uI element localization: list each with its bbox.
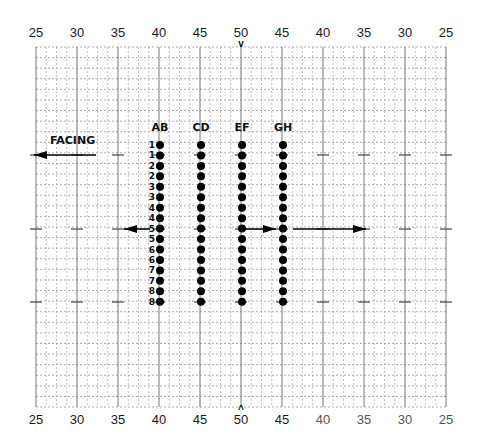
marcher-dot [156, 298, 164, 306]
row-label: 6 [149, 255, 155, 265]
marcher-dot [238, 141, 246, 149]
marcher-dot [156, 214, 164, 222]
marcher-dot [156, 183, 164, 191]
marcher-dot [197, 225, 205, 233]
center-marker-top: v [238, 38, 244, 49]
marcher-dot [197, 141, 205, 149]
marcher-dot [279, 172, 287, 180]
row-label: 5 [149, 224, 155, 234]
marcher-dot [156, 193, 164, 201]
marcher-dot [238, 256, 246, 264]
marcher-dot [279, 235, 287, 243]
marcher-dot [156, 256, 164, 264]
column-label-gh: GH [274, 121, 292, 134]
row-label: 3 [149, 182, 155, 192]
marcher-dot [279, 141, 287, 149]
marcher-dot [238, 266, 246, 274]
marcher-dot [238, 298, 246, 306]
marcher-dot [279, 266, 287, 274]
row-label: 6 [149, 245, 155, 255]
row-label: 7 [149, 265, 155, 275]
column-label-cd: CD [192, 121, 209, 134]
row-label: 4 [149, 203, 155, 213]
row-label: 4 [149, 213, 155, 223]
marcher-dot [156, 204, 164, 212]
marcher-dot [238, 214, 246, 222]
center-marker-bottom: ^ [238, 404, 244, 415]
marcher-dot [279, 256, 287, 264]
row-label: 8 [149, 286, 155, 296]
marcher-dot [156, 277, 164, 285]
marcher-dot [279, 204, 287, 212]
marcher-dot [238, 162, 246, 170]
marcher-dot [156, 162, 164, 170]
arrowhead-icon [263, 225, 276, 233]
marcher-dot [156, 246, 164, 254]
marcher-dot [156, 287, 164, 295]
marcher-dot [156, 235, 164, 243]
marcher-dot [197, 266, 205, 274]
marcher-dot [197, 246, 205, 254]
marcher-dot [279, 246, 287, 254]
facing-label: FACING [50, 134, 95, 147]
marcher-dot [156, 151, 164, 159]
row-label: 7 [149, 276, 155, 286]
marcher-dot [238, 151, 246, 159]
marcher-dot [197, 151, 205, 159]
marcher-dot [197, 287, 205, 295]
marcher-dot [279, 277, 287, 285]
column-label-ef: EF [234, 121, 249, 134]
marcher-dot [279, 287, 287, 295]
marcher-dot [197, 235, 205, 243]
row-label: 1 [149, 140, 155, 150]
marcher-dot [156, 172, 164, 180]
marcher-dot [238, 277, 246, 285]
marcher-dot [279, 151, 287, 159]
row-label: 1 [149, 150, 155, 160]
marcher-dot [238, 183, 246, 191]
marcher-dot [197, 172, 205, 180]
row-label: 3 [149, 192, 155, 202]
marcher-dot [279, 193, 287, 201]
marcher-dot [238, 172, 246, 180]
column-label-ab: AB [152, 121, 169, 134]
marcher-dot [238, 204, 246, 212]
marcher-dot [156, 266, 164, 274]
marcher-dot [238, 193, 246, 201]
row-label: 2 [149, 171, 155, 181]
marcher-dot [238, 287, 246, 295]
marcher-dot [197, 183, 205, 191]
marcher-dot [197, 277, 205, 285]
row-label: 8 [149, 297, 155, 307]
marcher-dot [279, 183, 287, 191]
marcher-dot [197, 204, 205, 212]
marcher-dot [197, 214, 205, 222]
marcher-dot [197, 162, 205, 170]
row-label: 5 [149, 234, 155, 244]
arrowhead-icon [124, 225, 137, 233]
marcher-dot [238, 246, 246, 254]
marcher-dot [156, 225, 164, 233]
marcher-dot [197, 298, 205, 306]
row-label: 2 [149, 161, 155, 171]
marcher-dot [156, 141, 164, 149]
marcher-dot [238, 235, 246, 243]
marcher-dot [279, 225, 287, 233]
marcher-dot [279, 298, 287, 306]
marcher-dot [197, 256, 205, 264]
marcher-dot [197, 193, 205, 201]
drill-field-grid [0, 0, 482, 446]
marcher-dot [279, 214, 287, 222]
marcher-dot [279, 162, 287, 170]
